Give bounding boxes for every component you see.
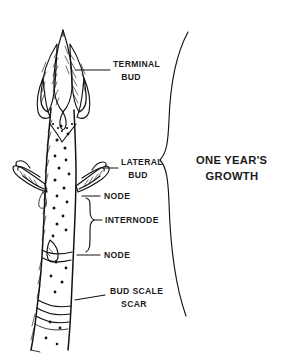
bud-scale-scar-label-line2: SCAR [121,299,147,309]
label-bud-scale-scar: BUD SCALE SCAR [110,286,163,309]
internode-label: INTERNODE [105,215,159,225]
leaf-scar-upper [50,123,76,142]
twig-illustration: TERMINAL BUD LATERAL BUD NODE INTERNODE … [0,0,287,356]
one-years-growth-label-line2: GROWTH [206,170,259,182]
lateral-bud-label-line2: BUD [128,170,148,180]
terminal-bud-label-line2: BUD [121,72,141,82]
lateral-bud-left [13,161,47,208]
label-lateral-bud: LATERAL BUD [121,157,163,180]
stem-shading [31,120,52,340]
leader-lines [75,70,118,300]
leaf-scar-lower [42,240,72,262]
terminal-bud-label-line1: TERMINAL [113,59,160,69]
label-terminal-bud: TERMINAL BUD [113,59,160,82]
twig-stem [31,108,76,352]
leader-bud-scale-scar [75,295,105,300]
internode-brace [86,198,94,252]
bud-scale-scar-rings [35,300,71,330]
lenticel-dots [45,125,71,346]
bud-scale-scar-label-line1: BUD SCALE [110,286,163,296]
lateral-bud-label-line1: LATERAL [121,157,163,167]
node-lower-label: NODE [104,250,130,260]
terminal-bud-shape [37,30,90,130]
node-upper-label: NODE [104,191,130,201]
terminal-bud-hatching [42,46,86,105]
one-years-growth-label-line1: ONE YEAR'S [196,154,268,166]
label-one-years-growth: ONE YEAR'S GROWTH [196,154,268,182]
one-years-growth-brace [160,32,188,316]
lateral-bud-right [76,162,109,192]
twig-diagram: TERMINAL BUD LATERAL BUD NODE INTERNODE … [0,0,287,356]
